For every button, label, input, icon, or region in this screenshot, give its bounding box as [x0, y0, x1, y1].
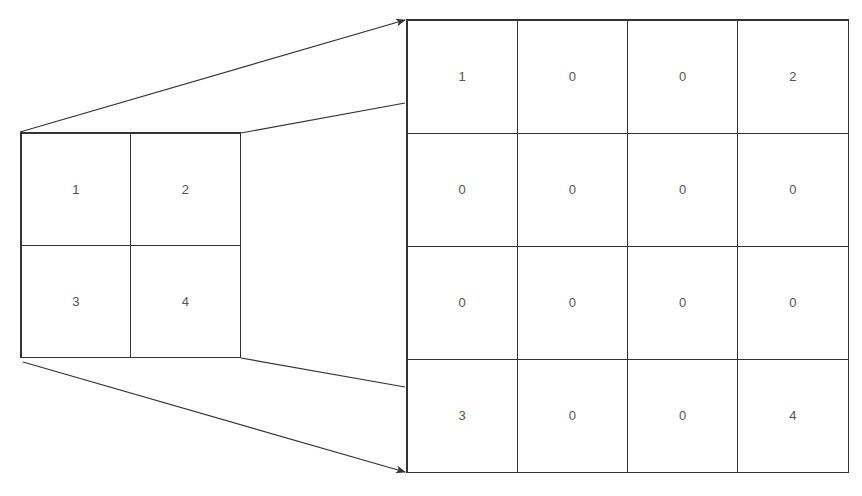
input-cell-r0c1: 2 — [130, 133, 241, 246]
output-cell-r2c2: 0 — [627, 246, 738, 360]
input-cell-r0c0: 1 — [21, 133, 132, 246]
bottom-line — [241, 358, 405, 387]
output-cell-r2c3: 0 — [737, 246, 848, 360]
output-cell-r0c0: 1 — [407, 20, 518, 134]
output-cell-r3c2: 0 — [627, 359, 738, 473]
output-cell-r1c0: 0 — [407, 133, 518, 247]
output-cell-r1c2: 0 — [627, 133, 738, 247]
bottom-arrow-arrow-icon — [23, 362, 405, 472]
output-cell-r0c1: 0 — [517, 20, 628, 134]
output-cell-r2c1: 0 — [517, 246, 628, 360]
output-cell-r2c0: 0 — [407, 246, 518, 360]
output-cell-r3c1: 0 — [517, 359, 628, 473]
top-arrow-arrow-icon — [20, 20, 405, 132]
output-matrix-4x4: 1002000000003004 — [406, 19, 849, 473]
output-cell-r0c3: 2 — [737, 20, 848, 134]
output-cell-r3c3: 4 — [737, 359, 848, 473]
input-cell-r1c0: 3 — [21, 245, 132, 358]
output-cell-r3c0: 3 — [407, 359, 518, 473]
output-cell-r0c2: 0 — [627, 20, 738, 134]
output-cell-r1c1: 0 — [517, 133, 628, 247]
top-line — [241, 103, 405, 133]
input-matrix-2x2: 1234 — [20, 132, 241, 358]
input-cell-r1c1: 4 — [130, 245, 241, 358]
output-cell-r1c3: 0 — [737, 133, 848, 247]
